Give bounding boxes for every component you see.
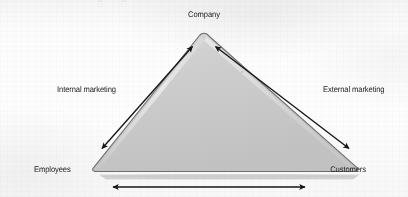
vertex-label-company: Company — [188, 10, 220, 20]
vertex-label-customers: Customers — [330, 165, 366, 175]
triangle-drop-shadow — [99, 174, 360, 180]
services-marketing-triangle-figure: marketing triangle — [0, 0, 408, 197]
edge-label-external-marketing: External marketing — [323, 85, 384, 95]
vertex-label-employees: Employees — [34, 165, 71, 175]
edge-label-internal-marketing: Internal marketing — [57, 85, 116, 95]
